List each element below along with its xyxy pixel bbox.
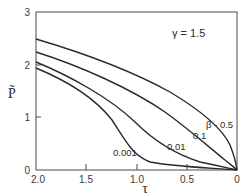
gamma-annotation: γ = 1.5 [172, 27, 205, 39]
x-tick-label-2.0: 2.0 [31, 174, 45, 185]
y-tick-label-3: 3 [24, 7, 30, 18]
y-axis-label: P̃ [8, 85, 16, 101]
chart: 0 1 2 3 P̃ 2.0 1.5 1.0 0.5 0 τ β - 0.5 0… [0, 0, 248, 195]
y-tick-label-2: 2 [24, 60, 30, 71]
curve-label-0.001: 0.001 [113, 147, 137, 158]
x-axis-label: τ [142, 181, 148, 195]
x-tick-label-0.5: 0.5 [180, 174, 194, 185]
curve-label-0.1: 0.1 [193, 130, 206, 141]
x-tick-label-0: 0 [234, 174, 240, 185]
y-tick-label-1: 1 [24, 112, 30, 123]
x-tick-label-1.5: 1.5 [79, 174, 93, 185]
y-tick-label-0: 0 [24, 165, 30, 176]
curve-label-beta-0.5: β - 0.5 [206, 119, 233, 130]
curve-label-0.01: 0.01 [167, 141, 186, 152]
